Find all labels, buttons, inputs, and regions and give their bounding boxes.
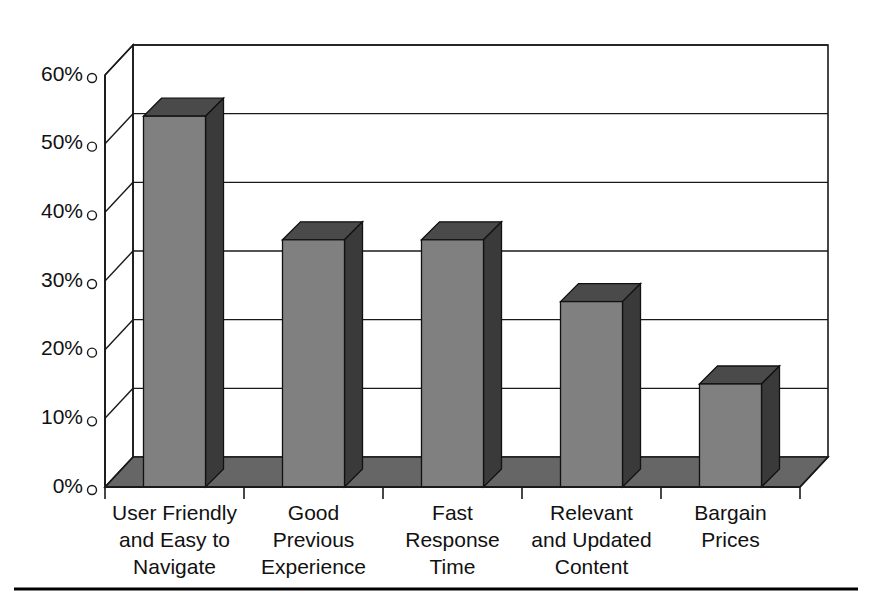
chart-figure: 0%10%20%30%40%50%60% User Friendlyand Ea… xyxy=(0,0,873,615)
bar-side-face xyxy=(484,222,502,487)
bar-front-face xyxy=(422,240,484,487)
bar-front-face xyxy=(700,384,762,487)
bar-chart-3d: 0%10%20%30%40%50%60% User Friendlyand Ea… xyxy=(0,0,873,615)
bar-side-face xyxy=(623,284,641,487)
bar-front-face xyxy=(283,240,345,487)
bar-side-face xyxy=(206,98,224,487)
y-tick-label: 60% xyxy=(41,62,83,85)
y-tick-marker xyxy=(88,280,97,289)
bar-side-face xyxy=(345,222,363,487)
bar xyxy=(144,98,224,487)
y-tick-label: 0% xyxy=(53,474,83,497)
bar xyxy=(561,284,641,487)
y-tick-marker xyxy=(88,348,97,357)
bar xyxy=(422,222,502,487)
y-tick-label: 50% xyxy=(41,130,83,153)
y-tick-label: 20% xyxy=(41,336,83,359)
y-tick-marker xyxy=(88,142,97,151)
y-tick-marker xyxy=(88,486,97,495)
y-tick-label: 40% xyxy=(41,199,83,222)
bar xyxy=(283,222,363,487)
bar xyxy=(700,366,780,487)
y-tick-marker xyxy=(88,211,97,220)
y-tick-label: 30% xyxy=(41,268,83,291)
y-tick-label: 10% xyxy=(41,405,83,428)
y-tick-marker xyxy=(88,417,97,426)
bar-front-face xyxy=(144,116,206,487)
bar-front-face xyxy=(561,302,623,487)
y-tick-marker xyxy=(88,74,97,83)
bar-side-face xyxy=(762,366,780,487)
